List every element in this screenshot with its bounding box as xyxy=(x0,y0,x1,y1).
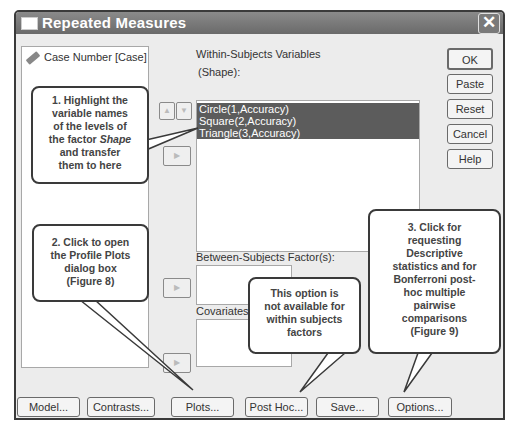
callout-text: 2. Click to open xyxy=(34,236,147,249)
callout-text: Bonferroni post- xyxy=(370,273,499,286)
callout-text: them to here xyxy=(33,159,147,172)
callout-text: of the levels of xyxy=(33,120,147,133)
callout-text: comparisons xyxy=(370,312,499,325)
callout-text: 1. Highlight the xyxy=(33,94,147,107)
callout-text: (Figure 8) xyxy=(34,275,147,288)
callout-text: 3. Click for xyxy=(370,221,499,234)
callout-text: Descriptive xyxy=(370,247,499,260)
callout-options: 3. Click for requesting Descriptive stat… xyxy=(368,209,501,354)
callout-text: hoc multiple xyxy=(370,286,499,299)
callout-text: pairwise xyxy=(370,299,499,312)
callout-text: the factor Shape xyxy=(33,133,147,146)
callout-post-hoc-unavailable: This option is not available for within … xyxy=(248,277,361,354)
callout-text: dialog box xyxy=(34,262,147,275)
callout-text: (Figure 9) xyxy=(370,325,499,338)
callout-text: requesting xyxy=(370,234,499,247)
callout-text: and transfer xyxy=(33,146,147,159)
callout-text: This option is xyxy=(250,287,359,300)
callout-text: statistics and for xyxy=(370,260,499,273)
callout-text: the Profile Plots xyxy=(34,249,147,262)
callout-text: not available for xyxy=(250,300,359,313)
callout-text: factors xyxy=(250,326,359,339)
callout-text: within subjects xyxy=(250,313,359,326)
callout-text: variable names xyxy=(33,107,147,120)
callout-profile-plots: 2. Click to open the Profile Plots dialo… xyxy=(32,224,149,302)
callout-highlight-variables: 1. Highlight the variable names of the l… xyxy=(31,86,149,184)
